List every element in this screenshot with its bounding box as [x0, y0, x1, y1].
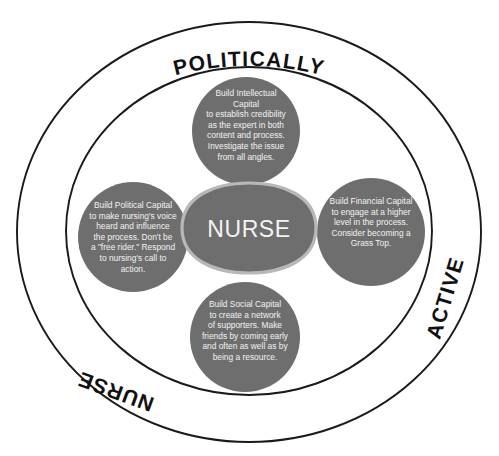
ring-label-politically: POLITICALLY [171, 47, 327, 79]
lobe-circle-intellectual [192, 77, 300, 185]
lobe-circle-political [78, 182, 188, 292]
lobe-circle-social [190, 282, 300, 392]
diagram-canvas: POLITICALLY ACTIVE NURSE Build Intellect… [0, 0, 499, 456]
diagram-graphics: POLITICALLY ACTIVE NURSE [0, 0, 499, 456]
ring-label-nurse-outer: NURSE [74, 368, 157, 417]
ring-label-active: ACTIVE [422, 254, 469, 341]
lobe-circle-financial [317, 178, 425, 286]
center-nurse-shape [182, 183, 316, 273]
